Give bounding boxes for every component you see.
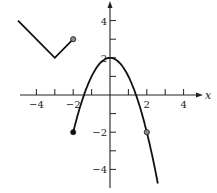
closed-dot-marker: [71, 130, 76, 135]
x-axis-label: x: [205, 89, 212, 102]
y-tick-label: −4: [92, 164, 107, 175]
function-graph: x −4−22442−2−4: [0, 0, 217, 193]
open-dot-marker: [71, 37, 76, 42]
x-tick-label: 2: [144, 99, 150, 110]
y-tick-label: 4: [101, 16, 107, 27]
open-dot-marker: [144, 130, 149, 135]
x-tick-label: 4: [180, 99, 186, 110]
x-tick-label: −4: [29, 99, 44, 110]
x-axis-arrow-icon: [196, 93, 203, 98]
y-axis-arrow-icon: [108, 1, 113, 8]
curve: [18, 21, 73, 58]
y-tick-label: −2: [92, 127, 107, 138]
x-tick-label: −2: [66, 99, 81, 110]
